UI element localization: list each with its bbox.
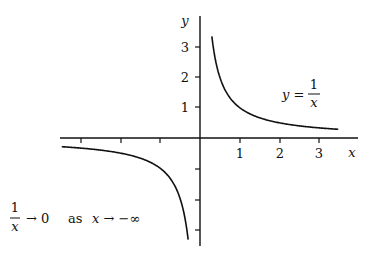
y-tick-label-1: 1 bbox=[181, 100, 189, 115]
x-tick-label-2: 2 bbox=[276, 146, 284, 161]
y-axis-label: y bbox=[180, 13, 189, 28]
graph-canvas: 1 2 3 3 2 1 x y y = 1 x 1 x → 0 as x → −… bbox=[0, 0, 371, 258]
limit-annotation: 1 x → 0 as x → −∞ bbox=[10, 200, 140, 234]
svg-text:x: x bbox=[11, 219, 19, 234]
svg-text:x: x bbox=[310, 95, 318, 110]
y-tick-label-2: 2 bbox=[181, 70, 189, 85]
curve-positive-branch bbox=[212, 36, 338, 129]
x-axis-label: x bbox=[348, 145, 356, 160]
svg-text:1: 1 bbox=[11, 200, 19, 215]
svg-text:y =: y = bbox=[281, 87, 304, 102]
svg-text:→ 0: → 0 bbox=[26, 211, 49, 226]
x-tick-label-3: 3 bbox=[315, 146, 323, 161]
x-tick-label-1: 1 bbox=[236, 146, 244, 161]
svg-text:1: 1 bbox=[310, 77, 318, 92]
svg-text:as: as bbox=[68, 211, 82, 226]
svg-text:x → −∞: x → −∞ bbox=[92, 211, 140, 226]
y-tick-label-3: 3 bbox=[181, 40, 189, 55]
equation-label: y = 1 x bbox=[281, 77, 320, 110]
